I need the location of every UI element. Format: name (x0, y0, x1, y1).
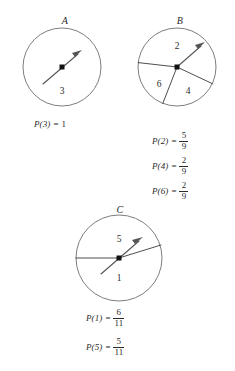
spinner-b-dial (133, 26, 225, 114)
spinner-b-pivot (175, 65, 180, 70)
caption-equals: = (102, 313, 113, 323)
spinner-b-sector-label-6: 6 (152, 79, 166, 89)
spinner-b-radius-3 (177, 67, 212, 84)
caption-lhs: P(3) (34, 119, 50, 129)
spinner-a-title: A (55, 15, 75, 26)
caption-fraction: 6 11 (113, 308, 124, 328)
spinner-a-dial (18, 26, 108, 114)
fraction-denominator: 9 (181, 192, 188, 202)
caption-equals: = (102, 342, 113, 352)
spinner-a-pointer-head (72, 50, 82, 57)
spinner-a-sector-label-3: 3 (55, 86, 69, 96)
spinner-a-pivot (60, 65, 65, 70)
spinner-a-caption-0: P(3) = 1 (34, 119, 66, 129)
caption-equals: = (50, 119, 61, 129)
figure-canvas: A 3 P(3) = 1 B 2 6 (0, 0, 235, 371)
spinner-c-sector-label-5: 5 (112, 234, 126, 244)
fraction-denominator: 11 (113, 348, 124, 358)
spinner-b-caption-1: P(4) = 2 9 (152, 156, 188, 176)
spinner-c-pivot (117, 256, 122, 261)
caption-fraction: 2 9 (179, 156, 188, 176)
caption-equals: = (168, 186, 179, 196)
spinner-b-sector-label-4: 4 (181, 86, 195, 96)
spinner-c-dial (75, 213, 167, 305)
spinner-c-caption-0: P(1) = 6 11 (86, 308, 124, 328)
spinner-b-sector-label-2: 2 (170, 41, 184, 51)
fraction-denominator: 9 (181, 142, 188, 152)
fraction-numerator: 5 (116, 337, 123, 347)
spinner-b-title: B (170, 15, 190, 26)
caption-equals: = (168, 161, 179, 171)
spinner-b-pointer-head (195, 42, 205, 49)
fraction-numerator: 6 (116, 308, 123, 318)
caption-fraction: 2 9 (179, 181, 188, 201)
caption-fraction: 5 9 (179, 131, 188, 151)
spinner-c-sector-label-1: 1 (112, 273, 126, 283)
spinner-b-caption-2: P(6) = 2 9 (152, 181, 188, 201)
caption-fraction: 5 11 (113, 337, 124, 357)
caption-lhs: P(1) (86, 313, 102, 323)
fraction-denominator: 9 (181, 167, 188, 177)
spinner-b-caption-0: P(2) = 5 9 (152, 131, 188, 151)
caption-value: 1 (61, 119, 66, 129)
caption-lhs: P(5) (86, 342, 102, 352)
caption-equals: = (168, 136, 179, 146)
spinner-b-radius-1 (138, 63, 177, 67)
fraction-numerator: 5 (181, 131, 188, 141)
spinner-c-radius-2 (119, 245, 161, 258)
caption-lhs: P(4) (152, 161, 168, 171)
fraction-denominator: 11 (113, 319, 124, 329)
fraction-numerator: 2 (181, 181, 188, 191)
caption-lhs: P(2) (152, 136, 168, 146)
caption-lhs: P(6) (152, 186, 168, 196)
fraction-numerator: 2 (181, 156, 188, 166)
spinner-c-caption-1: P(5) = 5 11 (86, 337, 124, 357)
